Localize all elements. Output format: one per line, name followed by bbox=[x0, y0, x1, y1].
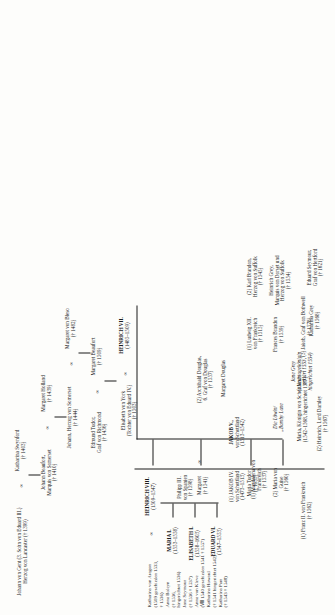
node-jane-grey: Jane Grey („Neuntagekönigin erklärt 1553… bbox=[290, 349, 313, 393]
node-edmund-tudor: Edmund Tudor, Graf von Richmond († 1456) bbox=[90, 397, 107, 467]
node-elisabeth-i: ELISABETH I. (1558–1603) bbox=[188, 517, 199, 569]
node-maria-i: MARIA I. (1553–1558) bbox=[166, 517, 177, 563]
connector-v-main bbox=[136, 438, 282, 439]
node-franz-brandon: Frances Brandon († 1559) bbox=[272, 311, 283, 357]
connector-h bbox=[216, 503, 217, 517]
node-jakob-v: JAKOB V., von Schottland (1513–1542) bbox=[228, 409, 245, 455]
node-margaret-douglas: Margaret Douglas bbox=[220, 353, 226, 403]
diagram-canvas: Johann von Gent (3. Sohn von Eduard III.… bbox=[0, 0, 335, 615]
wife-entry: Katharina von Aragon bbox=[146, 537, 152, 607]
marriage-symbol: ∞ bbox=[122, 371, 127, 375]
node-margaret-beaufort: Margaret Beaufort († 1509) bbox=[90, 327, 101, 385]
genealogy-diagram: Johann von Gent (3. Sohn von Eduard III.… bbox=[0, 0, 335, 615]
node-johann-von-gent: Johann von Gent (3. Sohn von Eduard III.… bbox=[16, 491, 27, 611]
connector-h bbox=[194, 503, 195, 517]
connector-h bbox=[172, 503, 173, 517]
node-jakob-iv: (1) JAKOB IV. von Schottland (1473–1513) bbox=[228, 463, 245, 509]
connector-v bbox=[104, 380, 116, 381]
marriage-symbol: ∞ bbox=[94, 389, 99, 393]
node-franz-ii: (1) Franz II. von Frankreich († 1562) bbox=[300, 471, 311, 549]
node-die-loewin: Die Löwin/ „Bamby Lane bbox=[272, 397, 283, 437]
node-margaret-holland: Margaret Holland († 1439) bbox=[40, 365, 51, 421]
node-ludwig-xii: (1) Ludwig XII. von Frankreich († 1515) bbox=[246, 309, 263, 357]
node-johann-beaufort: Johann Beaufort, Marquis von Somerset (†… bbox=[40, 433, 57, 511]
node-johann-herzog-somerset: Johann, Herzog von Somerset († 1444) bbox=[66, 369, 77, 465]
connector-h bbox=[152, 439, 153, 465]
connector-v bbox=[28, 474, 40, 475]
diagram-rule bbox=[134, 468, 324, 469]
node-katharina-swynford: Katharina Swynford († 1403) bbox=[14, 421, 25, 479]
wife-entry: Jane Seymour bbox=[181, 537, 187, 607]
node-philipp-iii: Philipp III. von Spanien († 1598) bbox=[176, 467, 193, 507]
marriage-symbol: ∞ bbox=[148, 531, 153, 535]
connector-h bbox=[282, 439, 283, 465]
node-heinrich-viii: HEINRICH VIII. (1509–1547) bbox=[144, 465, 155, 527]
node-karl-brandon: (2) Karl Brandon, Herzog von Suffolk († … bbox=[246, 249, 263, 303]
node-heinrich-darnley: (2) Heinrich, Lord Darnley († 1567) bbox=[316, 381, 327, 465]
node-heinrich-grey: Heinrich Grey, Marquis von Dorset und He… bbox=[268, 251, 291, 309]
connector-v bbox=[54, 416, 66, 417]
node-heinrich-vii: HEINRICH VII. (1485–1509) bbox=[118, 305, 129, 365]
marriage-symbol: ∞ bbox=[18, 483, 23, 487]
connector-v bbox=[78, 352, 90, 353]
node-margaret-1541: Margaret († 1541) bbox=[196, 467, 207, 503]
node-eduard-vi: EDUARD VI. (1547–1553) bbox=[210, 517, 221, 565]
node-eduard-seymour: Eduard Seymour, Graf von Hertford († 162… bbox=[306, 241, 323, 293]
marriage-symbol: ∞ bbox=[68, 361, 73, 365]
marriage-symbol: ∞ bbox=[44, 425, 49, 429]
node-archibald-douglas: (2) Archibald Douglas, 6. Graf von Dougl… bbox=[196, 351, 213, 407]
connector-h bbox=[136, 305, 137, 439]
node-elisabeth-von-york: Elisabeth von York (Tochter von Eduard I… bbox=[120, 379, 137, 441]
marriage-symbol: ∞ bbox=[196, 459, 201, 463]
node-katharina-grey: Katharina Grey († 1568) bbox=[308, 297, 319, 343]
node-margaret-von-bleso: Margaret von Bleso († 1482) bbox=[64, 299, 75, 357]
